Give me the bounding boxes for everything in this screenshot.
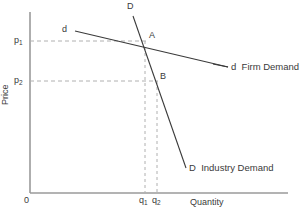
industry-demand-legend-tag: D	[189, 162, 196, 173]
p2-tick-label: p2	[14, 76, 23, 85]
point-b-label: B	[160, 72, 166, 81]
industry-demand-legend-text: Industry Demand	[201, 162, 273, 173]
p1-subscript: 1	[19, 39, 23, 46]
demand-curve-chart: Price Quantity 0 p1 p2 q1 q2 d D A B d F…	[0, 0, 304, 214]
firm-demand-legend: d Firm Demand	[231, 62, 299, 72]
industry-demand-curve-tag: D	[127, 2, 134, 11]
industry-demand-legend: D Industry Demand	[189, 163, 274, 173]
q2-tick-label: q2	[152, 196, 161, 205]
y-axis-title: Price	[1, 84, 10, 105]
q1-subscript: 1	[144, 199, 148, 206]
industry-demand-curve	[133, 16, 186, 168]
firm-demand-legend-tag: d	[231, 61, 236, 72]
p1-tick-label: p1	[14, 36, 23, 45]
q2-subscript: 2	[157, 199, 161, 206]
q1-tick-label: q1	[139, 196, 148, 205]
x-axis-title: Quantity	[190, 198, 224, 207]
firm-demand-curve-tag: d	[62, 25, 67, 34]
p2-subscript: 2	[19, 79, 23, 86]
origin-label: 0	[24, 196, 29, 205]
firm-legend-leader	[213, 64, 228, 67]
firm-demand-legend-text: Firm Demand	[242, 61, 300, 72]
point-a-label: A	[149, 31, 155, 40]
